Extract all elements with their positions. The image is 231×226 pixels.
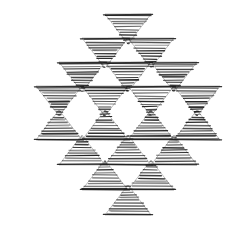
triangle-r5c2 (80, 110, 129, 140)
triangle-r5c3 (126, 110, 175, 140)
artboard (0, 0, 231, 226)
triangle-row-6 (57, 135, 198, 165)
triangle-lattice-drawing (0, 0, 231, 226)
triangle-r5c4 (172, 110, 221, 140)
triangle-r5c1 (34, 110, 83, 140)
